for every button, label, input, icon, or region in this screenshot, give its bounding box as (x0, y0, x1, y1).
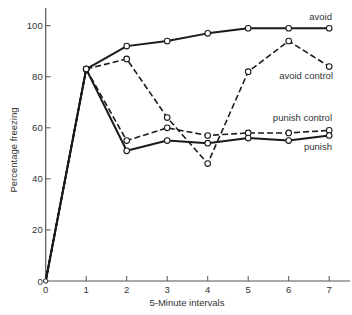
series-label-avoid: avoid (309, 11, 332, 22)
data-point-marker (286, 38, 292, 44)
data-point-marker (164, 38, 170, 44)
x-tick-label: 0 (43, 284, 48, 295)
x-tick-label: 7 (327, 284, 332, 295)
y-tick-label: 0 (37, 276, 42, 287)
data-point-marker (326, 64, 332, 70)
x-tick-label: 5 (246, 284, 251, 295)
data-point-marker (124, 138, 130, 144)
data-point-marker (83, 66, 89, 72)
y-tick-label: 60 (32, 122, 43, 133)
x-axis-label: 5-Minute intervals (150, 297, 225, 308)
series-label-punish-control: punish control (273, 112, 332, 123)
y-tick-label: 40 (32, 173, 43, 184)
series-line-punish (46, 69, 330, 281)
y-tick-label: 100 (27, 20, 43, 31)
data-point-marker (164, 138, 170, 144)
series-lines (44, 25, 333, 283)
x-tick-label: 2 (124, 284, 129, 295)
axes: 02040608010001234567 (27, 8, 350, 295)
x-tick-label: 4 (205, 284, 210, 295)
data-point-marker (164, 115, 170, 121)
origin-marker (44, 279, 48, 283)
data-point-marker (245, 135, 251, 141)
series-label-avoid-control: avoid control (279, 70, 333, 81)
data-point-marker (205, 161, 211, 167)
data-point-marker (286, 25, 292, 31)
data-point-marker (245, 69, 251, 75)
y-axis-label: Percentage freezing (8, 107, 19, 192)
data-point-marker (326, 25, 332, 31)
series-line-punish-control (46, 69, 330, 281)
data-point-marker (124, 148, 130, 154)
data-point-marker (124, 56, 130, 62)
x-tick-label: 1 (84, 284, 89, 295)
x-tick-label: 3 (165, 284, 170, 295)
data-point-marker (286, 130, 292, 136)
line-chart: 02040608010001234567 avoid avoid control… (0, 0, 352, 315)
y-tick-label: 20 (32, 224, 43, 235)
data-point-marker (326, 133, 332, 139)
data-point-marker (124, 43, 130, 49)
data-point-marker (205, 31, 211, 37)
series-label-punish: punish (304, 141, 332, 152)
data-point-marker (164, 125, 170, 131)
y-tick-label: 80 (32, 71, 43, 82)
x-tick-label: 6 (286, 284, 291, 295)
data-point-marker (205, 140, 211, 146)
data-point-marker (205, 133, 211, 139)
data-point-marker (286, 138, 292, 144)
series-line-avoid (46, 28, 330, 281)
data-point-marker (245, 25, 251, 31)
